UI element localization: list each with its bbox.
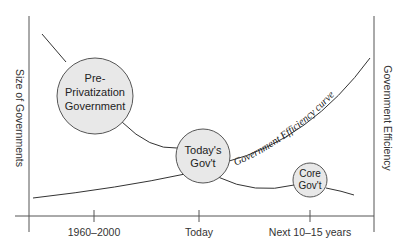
efficiency-curve-segment-1 <box>33 174 185 198</box>
size-curve-segment-3 <box>218 177 294 189</box>
bubble-pre-privatization-government: Pre- Privatization Government <box>57 58 133 134</box>
tick-label-1960-2000: 1960–2000 <box>68 226 121 238</box>
efficiency-curve-label: Government Efficiency curve <box>232 89 337 168</box>
svg-text:Pre-: Pre- <box>85 72 106 84</box>
bubble-core-government: Core Gov't <box>293 163 327 197</box>
svg-text:Government: Government <box>65 100 126 112</box>
government-size-efficiency-diagram: 1960–2000 Today Next 10–15 years Size of… <box>0 0 399 248</box>
size-curve-segment-1 <box>42 34 66 62</box>
bubble-todays-government: Today's Gov't <box>176 129 230 183</box>
svg-text:Today's: Today's <box>185 144 222 156</box>
right-axis-title: Government Efficiency <box>382 65 394 171</box>
size-curve-segment-2 <box>122 122 177 148</box>
size-curve-segment-4 <box>326 188 354 195</box>
efficiency-curve-segment-2 <box>226 58 370 162</box>
svg-text:Core: Core <box>299 168 321 179</box>
tick-label-next-10-15-years: Next 10–15 years <box>269 226 351 238</box>
svg-text:Gov't: Gov't <box>190 157 215 169</box>
left-axis-title: Size of Governments <box>14 69 26 167</box>
tick-label-today: Today <box>185 226 214 238</box>
svg-text:Gov't: Gov't <box>298 180 321 191</box>
svg-text:Privatization: Privatization <box>65 86 125 98</box>
